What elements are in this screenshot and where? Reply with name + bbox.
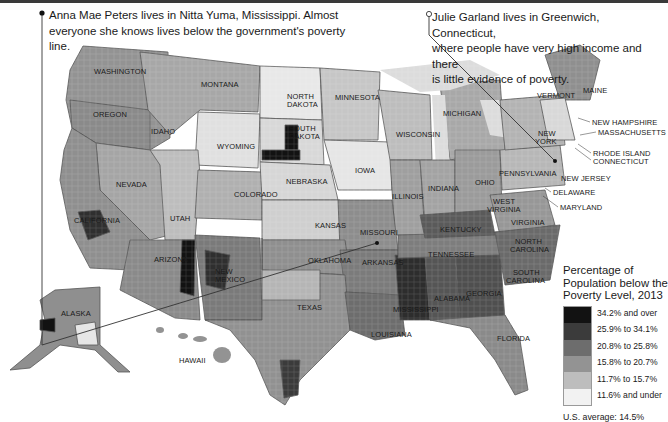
callout-left-line1: Anna Mae Peters lives in Nitta Yuma, Mis… <box>49 8 349 24</box>
state-label: VERMONT <box>537 92 575 100</box>
state-label: MICHIGAN <box>443 110 481 118</box>
state-label: DELAWARE <box>553 189 595 197</box>
state-label: VIRGINIA <box>487 206 521 214</box>
us-average-note: U.S. average: 14.5% <box>563 412 644 422</box>
legend-label-bin1: 34.2% and over <box>597 305 662 321</box>
state-label: LOUISIANA <box>371 331 412 339</box>
state-label: MONTANA <box>201 81 239 89</box>
state-label: MINNESOTA <box>335 94 380 102</box>
state-label: OREGON <box>93 111 127 119</box>
callout-nitta-yuma: Anna Mae Peters lives in Nitta Yuma, Mis… <box>49 8 349 55</box>
state-label: MISSOURI <box>360 229 398 237</box>
state-label: YORK <box>535 138 557 146</box>
state-label: INDIANA <box>428 185 459 193</box>
state-label: KANSAS <box>315 222 346 230</box>
state-label: FLORIDA <box>497 335 530 343</box>
state-label: HAWAII <box>179 357 206 365</box>
legend-swatch-bin4 <box>564 356 591 372</box>
state-label: CAROLINA <box>510 246 549 254</box>
state-label: WISCONSIN <box>396 131 440 139</box>
legend-title-line2: Population below the <box>563 277 668 290</box>
state-label: ALASKA <box>61 310 91 318</box>
state-label: OHIO <box>475 179 495 187</box>
state-label: NEW JERSEY <box>561 175 611 183</box>
map-legend: Percentage of Population below the Pover… <box>563 264 668 406</box>
greenwich-marker-dot <box>426 11 431 16</box>
state-label: TENNESSEE <box>428 251 474 259</box>
state-label: ARIZONA <box>154 256 188 264</box>
state-label: NEBRASKA <box>286 178 328 186</box>
legend-swatch-bin2 <box>564 323 591 339</box>
nitta-yuma-marker-dot <box>39 10 44 15</box>
state-label: OKLAHOMA <box>308 257 351 265</box>
legend-labels: 34.2% and over 25.9% to 34.1% 20.8% to 2… <box>597 305 662 403</box>
state-label: PENNSYLVANIA <box>499 170 557 178</box>
legend-title-line3: Poverty Level, 2013 <box>563 289 668 302</box>
legend-swatch-bin3 <box>564 340 591 356</box>
legend-title-line1: Percentage of <box>563 264 668 277</box>
state-label: CALIFORNIA <box>74 217 120 225</box>
legend-swatch-bin5 <box>564 372 591 388</box>
state-label: NEW HAMPSHIRE <box>592 119 657 127</box>
state-label: IOWA <box>355 167 375 175</box>
state-label: MISSISSIPPI <box>393 306 439 314</box>
state-label: WYOMING <box>217 143 255 151</box>
legend-swatch-bin1 <box>564 307 591 323</box>
state-label: KENTUCKY <box>440 226 482 234</box>
state-label: WASHINGTON <box>94 68 146 76</box>
state-label: VIRGINIA <box>511 219 545 227</box>
state-label: TEXAS <box>297 304 322 312</box>
legend-label-bin6: 11.6% and under <box>597 387 662 403</box>
legend-swatch-bin6 <box>564 389 591 405</box>
legend-label-bin5: 11.7% to 15.7% <box>597 371 662 387</box>
state-label: CAROLINA <box>506 277 545 285</box>
state-label: ARKANSAS <box>362 259 404 267</box>
state-label: MAINE <box>583 87 607 95</box>
state-label: MASSACHUSETTS <box>598 129 666 137</box>
state-label: ALABAMA <box>434 295 470 303</box>
callout-right-line2: where people have very high income and t… <box>432 41 662 72</box>
callout-left-line2: everyone she knows lives below the gover… <box>49 24 349 55</box>
state-label: MEXICO <box>215 276 245 284</box>
state-label: CONNECTICUT <box>593 158 649 166</box>
state-label: DAKOTA <box>289 133 320 141</box>
state-label: COLORADO <box>234 191 278 199</box>
callout-right-line3: is little evidence of poverty. <box>432 72 662 88</box>
state-label: IDAHO <box>151 128 175 136</box>
state-label: UTAH <box>170 215 190 223</box>
state-label: DAKOTA <box>287 101 318 109</box>
legend-label-bin2: 25.9% to 34.1% <box>597 321 662 337</box>
state-label: NEVADA <box>116 181 147 189</box>
state-label: GEORGIA <box>466 290 502 298</box>
callout-right-line1: Julie Garland lives in Greenwich, Connec… <box>432 10 662 41</box>
legend-swatches <box>563 306 592 406</box>
legend-label-bin3: 20.8% to 25.8% <box>597 338 662 354</box>
callout-greenwich: Julie Garland lives in Greenwich, Connec… <box>432 10 662 88</box>
legend-label-bin4: 15.8% to 20.7% <box>597 354 662 370</box>
state-label: MARYLAND <box>560 204 602 212</box>
state-label: ILLINOIS <box>392 193 424 201</box>
legend-title: Percentage of Population below the Pover… <box>563 264 668 302</box>
